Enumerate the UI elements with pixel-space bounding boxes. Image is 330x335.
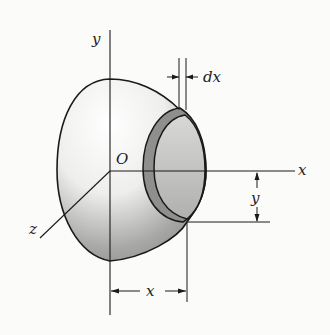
- solid-of-revolution-diagram: y O x z dx y x: [0, 0, 330, 335]
- thickness-label: dx: [203, 68, 222, 86]
- x-dim-arrowhead-left: [111, 289, 119, 294]
- y-axis-label: y: [91, 30, 101, 48]
- x-axis-label: x: [298, 161, 307, 179]
- x-dim-arrowhead-right: [178, 289, 186, 294]
- dx-arrowhead-right: [186, 75, 193, 80]
- y-dim-arrowhead-top: [255, 172, 260, 180]
- distance-dim-label: x: [146, 282, 155, 300]
- origin-label: O: [116, 150, 128, 168]
- dx-arrowhead-left: [172, 75, 179, 80]
- y-dim-arrowhead-bottom: [255, 214, 260, 222]
- radius-dim-label: y: [250, 189, 260, 207]
- z-axis-label: z: [28, 220, 37, 238]
